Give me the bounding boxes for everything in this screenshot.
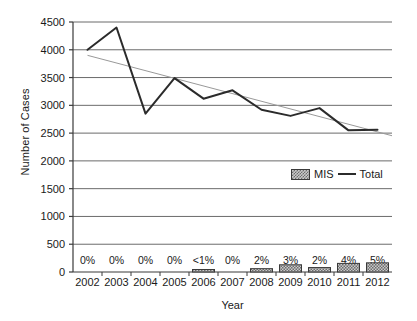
- chart-legend: MIS Total: [288, 163, 386, 185]
- legend-swatch-mis-icon: [291, 169, 310, 180]
- chart-container: Number of Cases Year 0500100015002000250…: [0, 0, 417, 321]
- mis-bar: [193, 270, 215, 273]
- legend-label-total: Total: [360, 168, 383, 180]
- mis-bar: [309, 268, 331, 272]
- mis-bar: [280, 265, 302, 272]
- legend-swatch-total-icon: [338, 173, 356, 175]
- plot-area: [0, 0, 417, 321]
- total-line: [88, 28, 378, 131]
- mis-bar: [367, 263, 389, 272]
- legend-label-mis: MIS: [314, 168, 334, 180]
- gridlines: [73, 22, 392, 244]
- mis-bar: [251, 269, 273, 272]
- total-line-path: [88, 28, 378, 131]
- mis-bar: [338, 263, 360, 272]
- axis-lines: [73, 22, 392, 272]
- mis-bars: [193, 263, 389, 272]
